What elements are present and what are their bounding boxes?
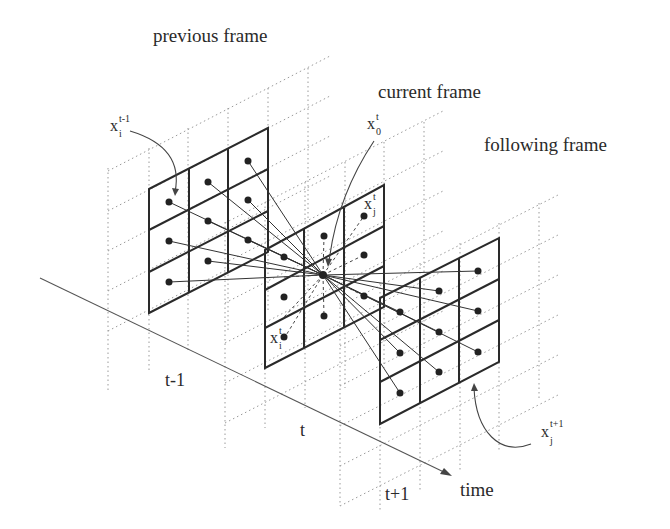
svg-text:t-1: t-1 [119, 113, 130, 124]
var-x-center: x t 0 [367, 111, 381, 137]
var-x-cur-i: x t i [270, 325, 282, 351]
tick-label-t-minus-1: t-1 [165, 370, 185, 390]
tick-label-t: t [300, 420, 305, 440]
var-x-prev: x t-1 i [110, 113, 130, 139]
arrowhead-icon [172, 188, 179, 196]
current-frame-label: current frame [378, 81, 481, 102]
svg-text:t: t [376, 111, 379, 122]
center-point-x0 [319, 271, 327, 279]
previous-frame-label: previous frame [153, 25, 267, 46]
svg-text:t: t [279, 325, 282, 336]
following-frame-label: following frame [484, 134, 607, 155]
pointer-x-next [474, 388, 531, 447]
svg-text:t: t [373, 191, 376, 202]
var-x-next: x t+1 j [541, 418, 563, 446]
arrowhead-icon [325, 258, 332, 267]
spatio-temporal-neighborhood-diagram: previous frame current frame following f… [0, 0, 670, 529]
time-axis-label: time [460, 479, 494, 500]
svg-text:x: x [367, 115, 375, 132]
svg-text:x: x [270, 329, 278, 346]
svg-text:x: x [364, 195, 372, 212]
svg-text:j: j [549, 435, 553, 446]
svg-text:x: x [541, 423, 549, 440]
pointer-x-prev [130, 131, 176, 192]
svg-text:0: 0 [376, 126, 381, 137]
svg-text:t+1: t+1 [550, 418, 563, 429]
arrowhead-icon [471, 383, 478, 391]
svg-text:i: i [279, 340, 282, 351]
svg-text:x: x [110, 117, 118, 134]
svg-text:i: i [119, 128, 122, 139]
tick-label-t-plus-1: t+1 [385, 484, 409, 504]
time-axis-arrowhead-icon [440, 468, 452, 476]
svg-text:j: j [372, 206, 376, 217]
